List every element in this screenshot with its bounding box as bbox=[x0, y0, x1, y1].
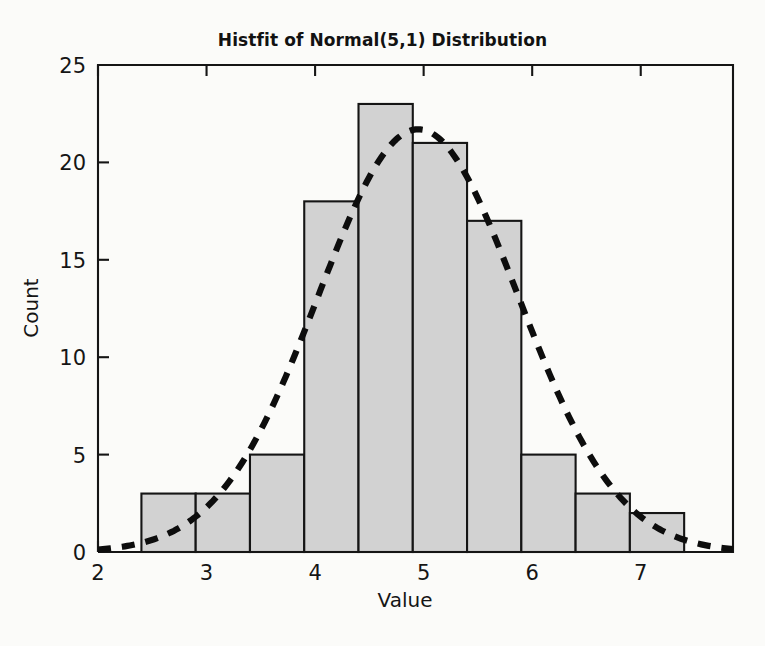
x-tick-label-5: 5 bbox=[417, 561, 430, 585]
histogram-bar bbox=[196, 494, 250, 552]
x-axis-tick-labels: 234567 bbox=[91, 561, 647, 585]
histogram-bar bbox=[359, 104, 413, 552]
x-axis-title: Value bbox=[378, 588, 433, 612]
histogram-bar bbox=[467, 221, 521, 552]
histogram-bar bbox=[521, 455, 575, 552]
histogram-bar bbox=[630, 513, 684, 552]
x-tick-label-2: 2 bbox=[91, 561, 104, 585]
y-axis-title: Count bbox=[19, 278, 43, 338]
figure-canvas: Histfit of Normal(5,1) Distribution 2345… bbox=[0, 0, 765, 646]
y-axis-tick-labels: 0510152025 bbox=[59, 54, 86, 565]
x-tick-label-3: 3 bbox=[200, 561, 213, 585]
histogram-bar bbox=[304, 201, 358, 552]
histogram-plot: 234567 0510152025 Value Count bbox=[0, 0, 765, 646]
x-tick-label-4: 4 bbox=[308, 561, 321, 585]
y-tick-label-15: 15 bbox=[59, 249, 86, 273]
histogram-bar bbox=[250, 455, 304, 552]
y-axis-tick-marks bbox=[98, 162, 109, 454]
x-tick-label-7: 7 bbox=[634, 561, 647, 585]
x-tick-label-6: 6 bbox=[526, 561, 539, 585]
histogram-bar bbox=[413, 143, 467, 552]
y-tick-label-10: 10 bbox=[59, 346, 86, 370]
y-tick-label-0: 0 bbox=[73, 541, 86, 565]
y-tick-label-20: 20 bbox=[59, 151, 86, 175]
y-tick-label-25: 25 bbox=[59, 54, 86, 78]
y-tick-label-5: 5 bbox=[73, 444, 86, 468]
